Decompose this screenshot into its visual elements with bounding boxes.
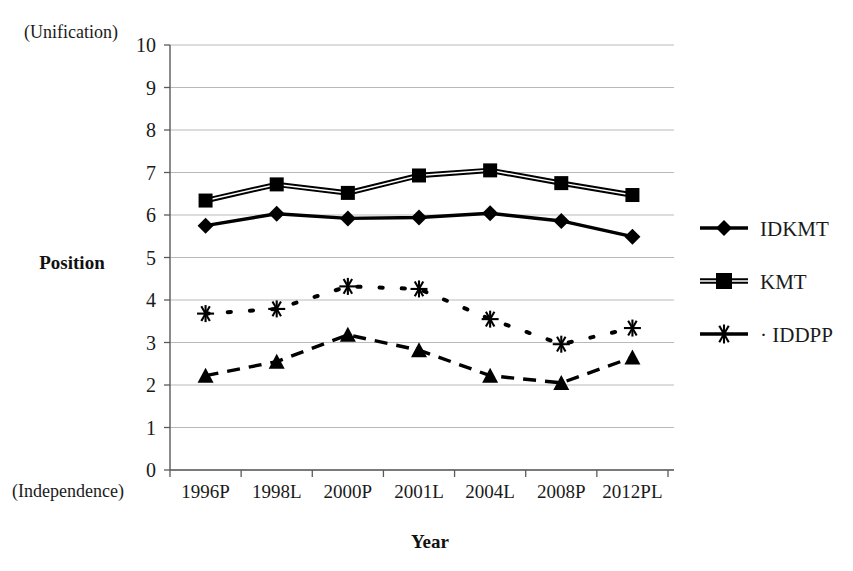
legend-label: KMT bbox=[760, 270, 807, 294]
data-point-square bbox=[341, 186, 355, 200]
legend-label: IDKMT bbox=[760, 217, 829, 241]
x-tick-label: 2008P bbox=[537, 481, 586, 502]
y-tick-label: 1 bbox=[146, 417, 156, 439]
data-point-square bbox=[412, 168, 426, 182]
y-tick-label: 6 bbox=[146, 204, 156, 226]
x-axis-title: Year bbox=[411, 531, 450, 552]
y-tick-label: 9 bbox=[146, 77, 156, 99]
data-point-square bbox=[483, 163, 497, 177]
data-point-square bbox=[270, 177, 284, 191]
y-tick-label: 3 bbox=[146, 332, 156, 354]
y-tick-label: 8 bbox=[146, 119, 156, 141]
y-tick-label: 7 bbox=[146, 162, 156, 184]
x-tick-label: 1998L bbox=[252, 481, 302, 502]
legend-label: · IDDPP bbox=[760, 323, 833, 347]
y-tick-label: 0 bbox=[146, 459, 156, 481]
x-tick-label: 2012PL bbox=[602, 481, 662, 502]
y-tick-label: 2 bbox=[146, 374, 156, 396]
data-point-square bbox=[554, 176, 568, 190]
data-point-square bbox=[199, 194, 213, 208]
unification-axis-note: (Unification) bbox=[24, 22, 118, 43]
x-tick-label: 2001L bbox=[394, 481, 444, 502]
data-point-square bbox=[716, 273, 732, 289]
y-tick-label: 4 bbox=[146, 289, 156, 311]
y-tick-label: 10 bbox=[136, 34, 156, 56]
independence-axis-note: (Independence) bbox=[12, 481, 124, 502]
x-tick-label: 2004L bbox=[465, 481, 515, 502]
line-chart: 012345678910 1996P1998L2000P2001L2004L20… bbox=[0, 0, 853, 571]
x-tick-label: 2000P bbox=[324, 481, 373, 502]
x-tick-label: 1996P bbox=[181, 481, 230, 502]
chart-container: 012345678910 1996P1998L2000P2001L2004L20… bbox=[0, 0, 853, 571]
data-point-square bbox=[625, 188, 639, 202]
y-tick-label: 5 bbox=[146, 247, 156, 269]
y-axis-title: Position bbox=[39, 252, 105, 273]
